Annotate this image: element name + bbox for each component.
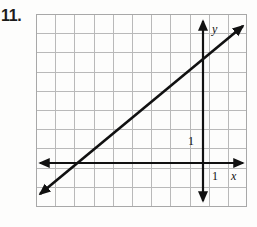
x-axis-unit-label: 1 [212, 169, 218, 183]
x-axis-label: x [230, 169, 237, 183]
y-axis-label: y [211, 22, 218, 36]
figure-page: 11. [0, 0, 257, 227]
y-axis-unit-label: 1 [188, 134, 194, 148]
graph-svg: y x 1 1 [0, 0, 257, 227]
coordinate-plane-figure: y x 1 1 [0, 0, 257, 227]
